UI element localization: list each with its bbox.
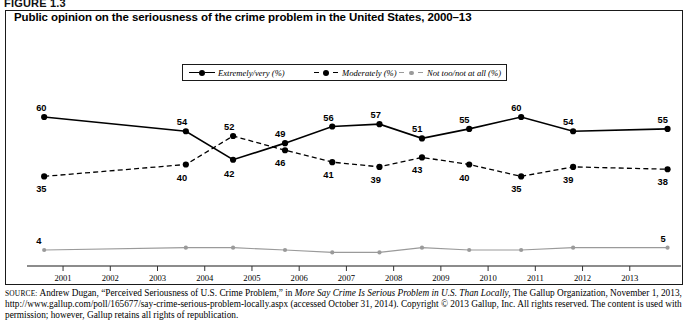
series-line: [44, 136, 667, 176]
data-point: [665, 246, 669, 250]
data-point: [419, 135, 425, 141]
data-point: [420, 246, 424, 250]
data-point-label: 57: [370, 110, 380, 120]
data-point-label: 46: [275, 158, 285, 168]
source-note: SOURCE: Andrew Dugan, “Perceived Serious…: [5, 288, 683, 322]
chart-plot-area: 2001200220032004200520062007200820092010…: [5, 10, 683, 285]
x-axis-tick-label: 2009: [427, 273, 455, 283]
data-point: [231, 246, 235, 250]
data-point: [519, 248, 523, 252]
data-point: [41, 173, 47, 179]
data-point: [376, 164, 382, 170]
x-axis-tick-label: 2001: [49, 273, 77, 283]
data-point: [570, 128, 576, 134]
x-axis-tick-label: 2013: [616, 273, 644, 283]
data-point-label: 40: [459, 173, 469, 183]
x-axis-tick-label: 2002: [96, 273, 124, 283]
data-point: [329, 159, 335, 165]
data-point: [466, 161, 472, 167]
data-point: [518, 173, 524, 179]
data-point-label: 35: [511, 184, 521, 194]
x-axis-tick-label: 2007: [332, 273, 360, 283]
data-point-label: 52: [224, 122, 234, 132]
data-point: [230, 133, 236, 139]
x-axis-tick-label: 2012: [569, 273, 597, 283]
data-point: [466, 126, 472, 132]
data-point: [664, 166, 670, 172]
data-point-label: 5: [661, 234, 666, 244]
data-point: [419, 154, 425, 160]
data-point-label: 39: [563, 175, 573, 185]
data-point-label: 4: [36, 236, 41, 246]
source-italic-title: More Say Crime Is Serious Problem in U.S…: [295, 288, 511, 298]
data-point: [377, 250, 381, 254]
data-point: [184, 246, 188, 250]
data-point-label: 49: [275, 129, 285, 139]
data-point-label: 54: [563, 117, 573, 127]
data-point-label: 54: [177, 117, 187, 127]
data-point: [42, 248, 46, 252]
data-point: [571, 246, 575, 250]
chart-svg: [5, 10, 683, 285]
figure-label: FIGURE 1.3: [4, 0, 66, 9]
data-point-label: 55: [658, 115, 668, 125]
data-point: [329, 123, 335, 129]
data-point-label: 39: [370, 175, 380, 185]
series-line: [44, 117, 667, 160]
data-point: [183, 128, 189, 134]
data-point-label: 55: [459, 115, 469, 125]
data-point: [41, 114, 47, 120]
x-axis-tick-label: 2003: [144, 273, 172, 283]
data-point: [664, 126, 670, 132]
data-point: [330, 250, 334, 254]
data-point: [282, 140, 288, 146]
source-prefix: SOURCE:: [5, 289, 38, 298]
source-text-1: Andrew Dugan, “Perceived Seriousness of …: [38, 288, 295, 298]
data-point-label: 43: [412, 165, 422, 175]
data-point-label: 35: [36, 184, 46, 194]
x-axis-tick-label: 2005: [238, 273, 266, 283]
x-axis-tick-label: 2008: [380, 273, 408, 283]
data-point: [376, 121, 382, 127]
data-point-label: 51: [412, 124, 422, 134]
x-axis-tick-label: 2010: [474, 273, 502, 283]
data-point-label: 60: [36, 103, 46, 113]
data-point: [283, 248, 287, 252]
data-point-label: 56: [323, 113, 333, 123]
x-axis-tick-label: 2011: [521, 273, 549, 283]
data-point-label: 40: [177, 173, 187, 183]
data-point: [183, 161, 189, 167]
data-point-label: 38: [658, 177, 668, 187]
data-point: [467, 248, 471, 252]
x-axis-tick-label: 2006: [285, 273, 313, 283]
data-point: [230, 157, 236, 163]
data-point: [518, 114, 524, 120]
data-point-label: 60: [511, 103, 521, 113]
data-point-label: 42: [224, 169, 234, 179]
data-point-label: 41: [323, 170, 333, 180]
x-axis-tick-label: 2004: [191, 273, 219, 283]
data-point: [282, 147, 288, 153]
data-point: [570, 164, 576, 170]
